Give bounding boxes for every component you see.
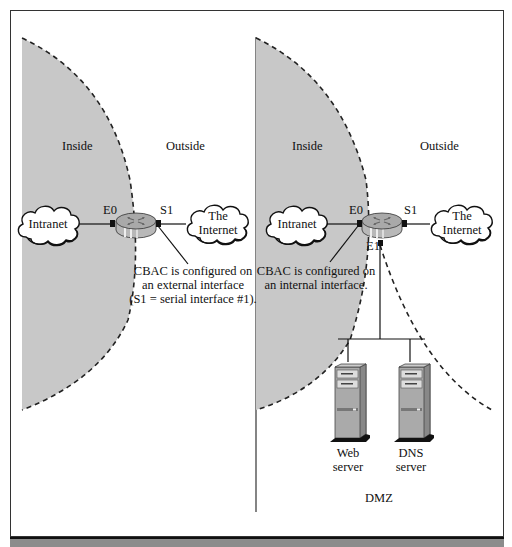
web-server-icon xyxy=(330,364,372,442)
web-server-line1: Web xyxy=(328,446,368,460)
outside-label-right: Outside xyxy=(420,140,459,153)
router-icon-left xyxy=(116,213,156,238)
internet-line1: The xyxy=(443,209,482,223)
note-right-line2: an internal interface. xyxy=(251,278,381,292)
internet-line1: The xyxy=(199,209,238,223)
intranet-label-right: Intranet xyxy=(278,217,317,231)
port-s1-left xyxy=(156,220,161,227)
footer-bar xyxy=(10,537,504,547)
port-e0-right xyxy=(357,220,362,227)
dmz-label: DMZ xyxy=(365,492,393,505)
web-server-label: Web server xyxy=(328,446,368,474)
dns-server-label: DNS server xyxy=(391,446,431,474)
internet-label-left: The Internet xyxy=(199,209,238,237)
router-icon-right xyxy=(362,213,402,238)
iface-s1-right: S1 xyxy=(404,204,417,217)
internet-line2: Internet xyxy=(443,223,482,237)
web-server-line2: server xyxy=(328,460,368,474)
internet-label-right: The Internet xyxy=(443,209,482,237)
iface-e1-right: E1 xyxy=(366,240,380,253)
outside-label-left: Outside xyxy=(166,140,205,153)
cbac-note-left: CBAC is configured on an external interf… xyxy=(128,264,258,306)
inside-label-left: Inside xyxy=(62,140,93,153)
intranet-label-left: Intranet xyxy=(29,217,68,231)
dmz-boundary xyxy=(380,245,492,410)
dns-server-line2: server xyxy=(391,460,431,474)
callout-line-left xyxy=(158,226,188,264)
internet-line2: Internet xyxy=(199,223,238,237)
note-left-line1: CBAC is configured on xyxy=(128,264,258,278)
inside-label-right: Inside xyxy=(292,140,323,153)
note-right-line1: CBAC is configured on xyxy=(251,264,381,278)
port-s1-right xyxy=(402,220,407,227)
port-e0-left xyxy=(110,220,115,227)
iface-s1-left: S1 xyxy=(160,204,173,217)
dns-server-icon xyxy=(394,364,436,442)
dns-server-line1: DNS xyxy=(391,446,431,460)
note-left-line3: (S1 = serial interface #1). xyxy=(128,292,258,306)
iface-e0-left: E0 xyxy=(103,204,117,217)
cbac-note-right: CBAC is configured on an internal interf… xyxy=(251,264,381,292)
note-left-line2: an external interface xyxy=(128,278,258,292)
iface-e0-right: E0 xyxy=(349,204,363,217)
